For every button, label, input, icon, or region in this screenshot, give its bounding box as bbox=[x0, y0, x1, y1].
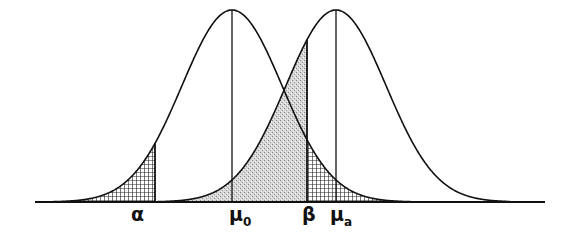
alpha-label: α bbox=[131, 205, 144, 224]
mu0-base: μ bbox=[229, 203, 243, 225]
beta-region bbox=[40, 40, 307, 202]
alpha-region bbox=[40, 143, 155, 202]
mua-subscript: a bbox=[344, 215, 352, 229]
beta-label: β bbox=[302, 205, 316, 224]
hypothesis-diagram bbox=[0, 0, 570, 240]
mu0-label: μ0 bbox=[229, 205, 251, 228]
mu0-subscript: 0 bbox=[243, 215, 251, 229]
mua-base: μ bbox=[330, 203, 344, 225]
mua-label: μa bbox=[330, 205, 352, 228]
